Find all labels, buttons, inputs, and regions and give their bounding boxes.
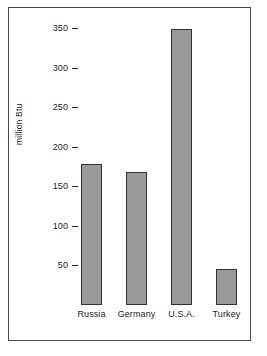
bar-turkey [216,269,237,305]
y-tick-mark-200 [72,147,78,148]
y-tick-mark-150 [72,186,78,187]
y-tick-label-350: 350 [53,24,68,33]
y-tick-mark-250 [72,107,78,108]
y-tick-50: 50 [26,260,78,272]
y-tick-mark-50 [72,265,78,266]
y-axis-title: million Btu [14,104,24,145]
y-tick-250: 250 [26,102,78,114]
y-tick-100: 100 [26,220,78,232]
plot-area: million Btu 350 300 250 200 150 100 50 [0,0,267,356]
bar-germany [126,172,147,305]
y-tick-label-200: 200 [53,143,68,152]
y-tick-mark-100 [72,226,78,227]
y-tick-label-50: 50 [58,261,68,270]
y-tick-label-250: 250 [53,103,68,112]
bar-usa [171,29,192,305]
y-tick-label-100: 100 [53,222,68,231]
y-tick-mark-300 [72,68,78,69]
y-tick-label-150: 150 [53,182,68,191]
y-tick-200: 200 [26,141,78,153]
y-tick-150: 150 [26,181,78,193]
x-tick-label-turkey: Turkey [200,310,253,319]
y-tick-350: 350 [26,23,78,35]
y-tick-mark-350 [72,28,78,29]
y-tick-label-300: 300 [53,64,68,73]
bar-chart: million Btu 350 300 250 200 150 100 50 [0,0,267,356]
y-tick-300: 300 [26,62,78,74]
bar-russia [81,164,102,305]
